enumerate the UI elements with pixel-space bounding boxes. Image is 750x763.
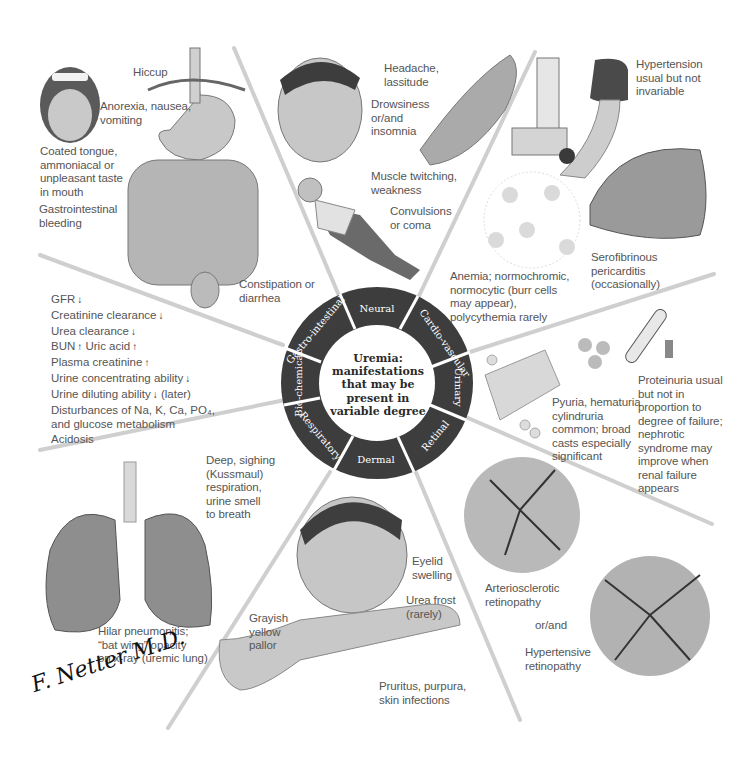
hypertensive-retina-illustration: [590, 556, 710, 676]
coated-tongue-illustration: [40, 67, 100, 143]
lungs-illustration: [46, 462, 212, 632]
label-urea-frost: Urea frost (rarely): [406, 594, 456, 621]
label-muscle-twitching: Muscle twitching, weakness: [371, 170, 457, 197]
bio-item: Urine concentrating ability↓: [51, 371, 215, 387]
label-or-and: or/and: [535, 619, 567, 633]
center-title: Uremia: manifestations that may be prese…: [320, 352, 436, 418]
label-anorexia: Anorexia, nausea, vomiting: [100, 100, 191, 127]
bio-item: Creatinine clearance↓: [51, 308, 215, 324]
segment-dermal: Dermal: [357, 454, 394, 465]
blood-pressure-cuff-illustration: [512, 58, 628, 178]
label-convulsions: Convulsions or coma: [390, 205, 452, 232]
arrow-down-icon: ↓: [77, 294, 82, 305]
arrow-up-icon: ↑: [144, 357, 149, 368]
segment-urinary: Urinary: [453, 367, 464, 407]
arrow-down-icon: ↓: [185, 373, 190, 384]
bio-item: Urea clearance↓: [51, 324, 215, 340]
label-proteinuria: Proteinuria usual but not in proportion …: [638, 374, 723, 496]
label-constipation: Constipation or diarrhea: [239, 278, 315, 305]
label-hypertensive-retinopathy: Hypertensive retinopathy: [525, 646, 591, 673]
label-pyuria: Pyuria, hematuria cylindruria common; br…: [552, 396, 640, 464]
bio-item: Urine diluting ability↓ (later): [51, 387, 215, 403]
arrow-up-icon: ↑: [132, 341, 137, 352]
bio-item: and glucose metabolism: [51, 417, 215, 432]
label-headache: Headache, lassitude: [384, 62, 439, 89]
label-pruritus: Pruritus, purpura, skin infections: [379, 680, 466, 707]
label-kussmaul: Deep, sighing (Kussmaul) respiration, ur…: [206, 454, 275, 522]
biochemical-list: GFR↓ Creatinine clearance↓ Urea clearanc…: [51, 292, 215, 447]
arrow-down-icon: ↓: [131, 326, 136, 337]
arteriosclerotic-retina-illustration: [464, 457, 580, 573]
arrow-down-icon: ↓: [158, 310, 163, 321]
label-anemia: Anemia; normochromic, normocytic (burr c…: [450, 270, 569, 324]
label-coated-tongue: Coated tongue, ammoniacal or unpleasant …: [40, 145, 123, 199]
bio-item: BUN↑ Uric acid↑: [51, 339, 215, 355]
pericarditis-heart-illustration: [590, 149, 706, 239]
gi-tract-illustration: [128, 48, 258, 308]
label-gi-bleeding: Gastrointestinal bleeding: [39, 203, 117, 230]
label-arteriosclerotic-retinopathy: Arteriosclerotic retinopathy: [485, 582, 559, 609]
segment-neural: Neural: [359, 303, 394, 314]
label-pallor: Grayish yellow pallor: [249, 612, 288, 653]
label-eyelid-swelling: Eyelid swelling: [412, 555, 452, 582]
uremia-diagram: Neural Cardio-vascular Urinary Retinal D…: [0, 0, 750, 763]
label-hiccup: Hiccup: [133, 66, 168, 80]
test-tube-illustration: [623, 307, 673, 365]
label-pericarditis: Serofibrinous pericarditis (occasionally…: [591, 251, 660, 292]
label-drowsiness: Drowsiness or/and insomnia: [371, 98, 429, 139]
bio-item: GFR↓: [51, 292, 215, 308]
blood-cells-illustration: [484, 172, 580, 268]
bio-item: Plasma creatinine↑: [51, 355, 215, 371]
label-hypertension: Hypertension usual but not invariable: [636, 58, 703, 99]
uremic-face-illustration: [297, 497, 407, 613]
bio-item: Disturbances of Na, K, Ca, PO₄,: [51, 403, 215, 418]
bio-item: Acidosis: [51, 432, 215, 447]
drowsy-head-illustration: [278, 58, 362, 162]
